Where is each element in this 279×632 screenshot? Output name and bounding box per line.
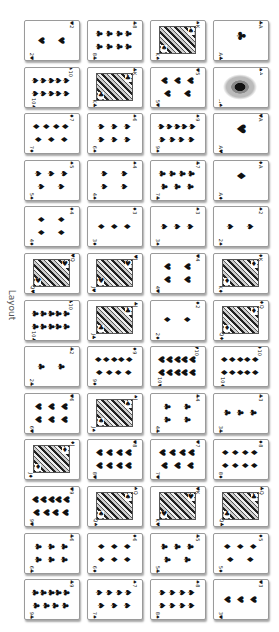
card-7-of-hearts[interactable]: ♥77♥♥♥♥♥♥♥♥	[150, 439, 206, 480]
card-6-of-spades[interactable]: ♠66♠♠♠♠♠♠♠	[87, 113, 143, 154]
diamonds-icon: ♦	[240, 448, 249, 458]
card-index-top: ♥Q	[69, 253, 74, 261]
diamonds-icon: ♦	[96, 220, 105, 233]
clubs-icon: ♣	[59, 540, 68, 553]
card-7-of-diamonds[interactable]: ♦77♦♦♦♦♦♦♦♦	[24, 113, 80, 154]
face-card-artwork: ♠♠	[96, 492, 133, 520]
clubs-icon: ♣	[41, 602, 50, 610]
card-q-of-diamonds[interactable]: ♦QQ♦♦♦	[213, 300, 269, 341]
card-10-of-spades[interactable]: ♠1010♠♠♠♠♠♠♠♠♠♠♠	[24, 67, 80, 108]
hearts-icon: ♥	[56, 30, 65, 50]
card-j-of-hearts[interactable]: ♥JJ♥♥♥	[87, 253, 143, 294]
spades-icon: ♠	[46, 167, 55, 180]
card-8-of-clubs[interactable]: ♣88♣♣♣♣♣♣♣♣♣	[87, 20, 143, 61]
card-index-bottom: 7♦	[29, 146, 34, 154]
hearts-icon: ♥	[159, 461, 168, 471]
spades-icon: ♠	[177, 136, 186, 144]
card-7-of-spades[interactable]: ♠77♠♠♠♠♠♠♠♠	[87, 579, 143, 620]
card-j-of-clubs[interactable]: ♣JJ♣♣♣	[87, 300, 143, 341]
card-9-of-spades[interactable]: ♠99♠♠♠♠♠♠♠♠♠♠	[150, 113, 206, 154]
card-9-of-clubs[interactable]: ♣99♣♣♣♣♣♣♣♣♣♣	[24, 579, 80, 620]
card-j-of-spades[interactable]: ♠JJ♠♠♠	[87, 393, 143, 434]
spades-icon: ♠	[125, 401, 131, 408]
card-a-of-spades[interactable]: ♠AA♠	[213, 67, 269, 108]
card-q-of-hearts[interactable]: ♥QQ♥♥♥	[24, 253, 80, 294]
spades-icon: ♠	[167, 136, 176, 144]
card-index-bottom: 2♣	[29, 379, 34, 387]
card-index-top: ♠5	[70, 160, 75, 168]
card-2-of-spades[interactable]: ♠22♠♠♠	[213, 206, 269, 247]
hearts-icon: ♥	[222, 593, 231, 606]
card-8-of-spades[interactable]: ♠88♠♠♠♠♠♠♠♠♠	[150, 579, 206, 620]
spades-pips: ♠♠	[220, 213, 259, 239]
card-5-of-clubs[interactable]: ♣55♣♣♣♣♣♣	[150, 533, 206, 574]
spades-icon: ♠	[59, 167, 68, 180]
card-6-of-diamonds[interactable]: ♦66♦♦♦♦♦♦♦	[87, 533, 143, 574]
clubs-icon: ♣	[172, 540, 181, 553]
card-index-bottom: 3♣	[218, 425, 223, 433]
hearts-pips: ♥♥♥♥	[157, 260, 196, 286]
card-index-bottom: A♣	[218, 53, 223, 61]
card-4-of-spades[interactable]: ♠44♠♠♠♠♠	[87, 160, 143, 201]
card-k-of-hearts[interactable]: ♥KK♥♥♥	[150, 486, 206, 527]
spades-icon: ♠	[167, 588, 176, 598]
diamonds-icon: ♦	[94, 369, 103, 377]
card-index-top: ♥9	[70, 487, 75, 495]
card-index-top: ♥K	[196, 487, 201, 495]
spades-pips: ♠♠♠♠♠♠♠	[94, 586, 133, 612]
diamonds-pips: ♦♦♦♦	[31, 213, 70, 239]
card-10-of-hearts[interactable]: ♥1010♥♥♥♥♥♥♥♥♥♥♥	[150, 346, 206, 387]
card-2-of-diamonds[interactable]: ♦22♦♦♦	[150, 300, 206, 341]
card-index-top: ♣3	[259, 393, 264, 401]
face-card-artwork: ♠♠	[96, 399, 133, 427]
face-card-artwork: ♣♣	[96, 73, 133, 101]
spades-icon: ♠	[159, 220, 168, 233]
card-6-of-clubs[interactable]: ♣66♣♣♣♣♣♣♣	[24, 533, 80, 574]
diamonds-icon: ♦	[224, 325, 230, 332]
card-2-of-clubs[interactable]: ♣22♣♣♣	[24, 346, 80, 387]
card-a-of-diamonds[interactable]: ♦AA♦♦	[213, 160, 269, 201]
card-8-of-hearts[interactable]: ♥88♥♥♥♥♥♥♥♥♥	[87, 439, 143, 480]
card-index-bottom: 8♣	[92, 53, 97, 61]
card-5-of-diamonds[interactable]: ♦55♦♦♦♦♦♦	[213, 533, 269, 574]
card-10-of-diamonds[interactable]: ♦1010♦♦♦♦♦♦♦♦♦♦♦	[213, 346, 269, 387]
card-a-of-clubs[interactable]: ♣AA♣♣	[213, 20, 269, 61]
card-index-bottom: 8♥	[92, 472, 97, 480]
card-j-of-diamonds[interactable]: ♦JJ♦♦♦	[24, 439, 80, 480]
card-2-of-hearts[interactable]: ♥22♥♥♥	[24, 20, 80, 61]
card-3-of-hearts[interactable]: ♥33♥♥♥♥	[213, 579, 269, 620]
card-4-of-clubs[interactable]: ♣44♣♣♣♣♣	[150, 393, 206, 434]
card-index-bottom: 5♣	[155, 565, 160, 573]
clubs-icon: ♣	[31, 602, 40, 610]
card-index-bottom: A♦	[218, 192, 223, 200]
card-k-of-clubs[interactable]: ♣KK♣♣♣	[87, 67, 143, 108]
card-k-of-diamonds[interactable]: ♦KK♦♦♦	[213, 253, 269, 294]
card-4-of-hearts[interactable]: ♥44♥♥♥♥♥	[150, 253, 206, 294]
card-3-of-spades[interactable]: ♠33♠♠♠♠	[150, 206, 206, 247]
spades-icon: ♠	[36, 180, 45, 193]
card-4-of-diamonds[interactable]: ♦44♦♦♦♦♦	[24, 206, 80, 247]
card-5-of-hearts[interactable]: ♥55♥♥♥♥♥♥	[150, 67, 206, 108]
card-index-bottom: J♠	[91, 426, 96, 432]
card-7-of-clubs[interactable]: ♣77♣♣♣♣♣♣♣♣	[150, 160, 206, 201]
diamonds-icon: ♦	[33, 135, 42, 145]
card-index-bottom: 2♦	[155, 332, 160, 340]
card-3-of-diamonds[interactable]: ♦33♦♦♦♦	[87, 206, 143, 247]
card-6-of-hearts[interactable]: ♥66♥♥♥♥♥♥♥	[24, 393, 80, 434]
diamonds-icon: ♦	[59, 135, 68, 145]
card-10-of-clubs[interactable]: ♣1010♣♣♣♣♣♣♣♣♣♣♣	[24, 300, 80, 341]
card-q-of-clubs[interactable]: ♣QQ♣♣♣	[213, 486, 269, 527]
diamonds-icon: ♦	[96, 553, 105, 566]
card-a-of-hearts[interactable]: ♥AA♥♥	[213, 113, 269, 154]
card-q-of-spades[interactable]: ♠QQ♠♠♠	[87, 486, 143, 527]
diamonds-icon: ♦	[122, 553, 131, 566]
card-k-of-spades[interactable]: ♠KK♠♠♠	[150, 20, 206, 61]
clubs-icon: ♣	[125, 308, 131, 315]
card-9-of-hearts[interactable]: ♥99♥♥♥♥♥♥♥♥♥♥	[24, 486, 80, 527]
card-8-of-diamonds[interactable]: ♦88♦♦♦♦♦♦♦♦♦	[213, 439, 269, 480]
card-9-of-diamonds[interactable]: ♦99♦♦♦♦♦♦♦♦♦♦	[87, 346, 143, 387]
hearts-icon: ♥	[188, 356, 197, 364]
card-3-of-clubs[interactable]: ♣33♣♣♣♣	[213, 393, 269, 434]
card-5-of-spades[interactable]: ♠55♠♠♠♠♠♠	[24, 160, 80, 201]
card-index-bottom: 6♦	[92, 565, 97, 573]
